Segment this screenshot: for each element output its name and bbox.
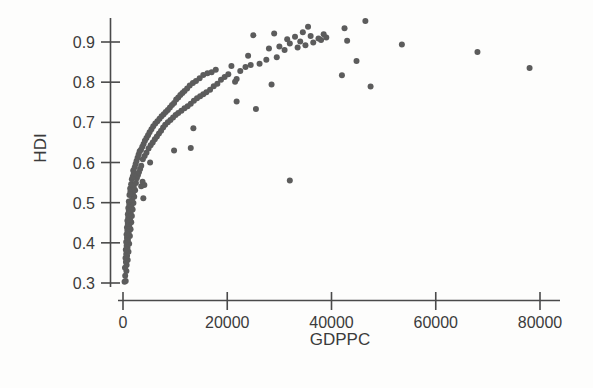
x-tick-label: 80000: [518, 314, 563, 331]
data-point: [250, 32, 256, 38]
data-point: [253, 106, 259, 112]
data-point: [266, 45, 272, 51]
data-point: [302, 42, 308, 48]
data-point: [228, 63, 234, 69]
data-point: [310, 39, 316, 45]
data-point: [276, 43, 282, 49]
plot-canvas: 0.30.40.50.60.70.80.9 020000400006000080…: [0, 0, 593, 388]
data-point: [225, 71, 231, 77]
data-point: [354, 58, 360, 64]
y-axis-title: HDI: [31, 133, 50, 162]
data-point: [284, 36, 290, 42]
data-point: [399, 41, 405, 47]
data-point: [213, 67, 219, 73]
data-point: [140, 179, 146, 185]
y-tick-label: 0.6: [73, 155, 95, 172]
data-point: [315, 35, 321, 41]
data-point: [282, 47, 288, 53]
data-point: [263, 57, 269, 63]
data-point: [138, 163, 144, 169]
data-point: [257, 61, 263, 67]
data-point: [339, 72, 345, 78]
data-point-group: [122, 18, 533, 285]
data-point: [237, 68, 243, 74]
data-point: [321, 31, 327, 37]
x-tick-label-group: 020000400006000080000: [119, 314, 563, 331]
data-point: [123, 278, 129, 284]
x-axis-title: GDPPC: [310, 330, 370, 349]
y-tick-label: 0.4: [73, 235, 95, 252]
data-point: [140, 195, 146, 201]
data-point: [362, 18, 368, 24]
data-point: [527, 65, 533, 71]
y-tick-label: 0.3: [73, 275, 95, 292]
data-point: [300, 29, 306, 35]
y-tick-label: 0.8: [73, 74, 95, 91]
data-point: [234, 76, 240, 82]
y-tick-label: 0.9: [73, 34, 95, 51]
data-point: [245, 53, 251, 59]
data-point: [295, 45, 301, 51]
x-tick-label: 0: [119, 314, 128, 331]
data-point: [292, 34, 298, 40]
data-point: [171, 147, 177, 153]
data-point: [188, 145, 194, 151]
data-point: [242, 64, 248, 70]
data-point: [287, 178, 293, 184]
x-tick-label: 60000: [414, 314, 459, 331]
data-point: [234, 98, 240, 104]
y-tick-label-group: 0.30.40.50.60.70.80.9: [73, 34, 95, 292]
x-tick-label: 20000: [205, 314, 250, 331]
data-point: [308, 33, 314, 39]
data-point: [344, 38, 350, 44]
data-point: [147, 160, 153, 166]
data-point: [474, 49, 480, 55]
data-point: [269, 82, 275, 88]
data-point: [342, 25, 348, 31]
data-point: [305, 24, 311, 30]
data-point: [297, 39, 303, 45]
data-point: [248, 62, 254, 68]
x-tick-label: 40000: [309, 314, 354, 331]
data-point: [271, 31, 277, 37]
y-tick-label: 0.5: [73, 195, 95, 212]
data-point: [368, 84, 374, 90]
data-point: [274, 54, 280, 60]
scatter-plot-figure: 0.30.40.50.60.70.80.9 020000400006000080…: [0, 0, 593, 388]
data-point: [190, 125, 196, 131]
y-tick-label: 0.7: [73, 114, 95, 131]
